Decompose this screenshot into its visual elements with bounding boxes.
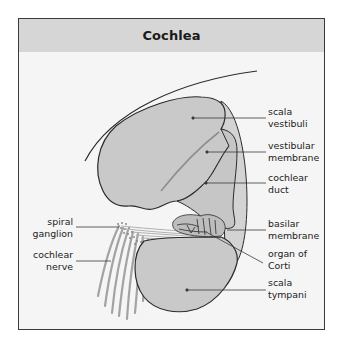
label-line: ganglion	[19, 228, 73, 240]
label-scala-tympani: scala tympani	[268, 277, 307, 300]
label-organ-of-corti: organ of Corti	[268, 248, 307, 271]
label-vestibular-membrane: vestibular membrane	[268, 140, 319, 163]
label-line: Corti	[268, 260, 307, 272]
label-scala-vestibuli: scala vestibuli	[268, 106, 308, 129]
label-spiral-ganglion: spiral ganglion	[19, 216, 73, 239]
label-line: membrane	[268, 152, 319, 164]
label-line: vestibuli	[268, 118, 308, 130]
label-line: basilar	[268, 218, 319, 230]
cochlea-figure-panel: Cochlea	[18, 18, 325, 330]
label-line: scala	[268, 277, 307, 289]
label-line: spiral	[19, 216, 73, 228]
figure-title: Cochlea	[142, 28, 200, 43]
label-line: cochlear	[268, 172, 308, 184]
label-cochlear-nerve: cochlear nerve	[19, 249, 73, 272]
label-line: nerve	[19, 261, 73, 273]
label-line: scala	[268, 106, 308, 118]
figure-header: Cochlea	[19, 19, 324, 52]
scala-tympani-shape	[135, 237, 237, 312]
diagram-area: scala vestibuli vestibular membrane coch…	[19, 52, 324, 329]
label-cochlear-duct: cochlear duct	[268, 172, 308, 195]
label-line: cochlear	[19, 249, 73, 261]
label-basilar-membrane: basilar membrane	[268, 218, 319, 241]
label-line: vestibular	[268, 140, 319, 152]
label-line: organ of	[268, 248, 307, 260]
label-line: tympani	[268, 289, 307, 301]
label-line: membrane	[268, 230, 319, 242]
label-line: duct	[268, 184, 308, 196]
